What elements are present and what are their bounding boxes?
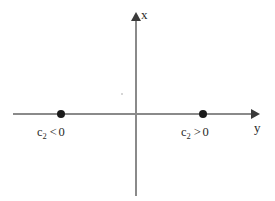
axis-label-y: y — [254, 121, 261, 134]
phase-line-figure: x y c2<0 c2>0 — [0, 0, 275, 201]
equilibrium-point-right — [199, 110, 207, 118]
annotation-left-region: c2<0 — [37, 126, 65, 139]
annotation-left-value: 0 — [58, 125, 64, 139]
annotation-left-subscript: 2 — [43, 131, 47, 141]
arrow-up-icon — [131, 12, 141, 21]
annotation-right-subscript: 2 — [187, 131, 191, 141]
axis-label-x: x — [141, 8, 148, 21]
vertical-axis-line — [135, 15, 137, 196]
annotation-left-variable: c — [37, 125, 43, 139]
annotation-left-relation: < — [50, 125, 57, 139]
scan-artifact-speck — [121, 93, 123, 95]
annotation-right-region: c2>0 — [181, 126, 209, 139]
arrow-right-icon — [251, 109, 260, 119]
annotation-right-variable: c — [181, 125, 187, 139]
annotation-right-relation: > — [194, 125, 201, 139]
annotation-right-value: 0 — [202, 125, 208, 139]
equilibrium-point-left — [57, 110, 65, 118]
